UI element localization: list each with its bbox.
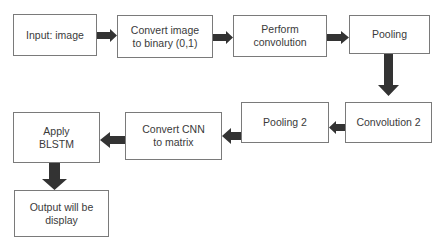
arrow-down-icon <box>378 54 399 96</box>
flowchart-diagram: Input: image Convert image to binary (0,… <box>0 0 441 251</box>
arrow-left-icon <box>222 128 241 144</box>
node-apply-blstm: Apply BLSTM <box>13 112 100 163</box>
node-perform-convolution: Perform convolution <box>233 15 327 57</box>
arrow-right-icon <box>97 29 117 42</box>
node-pooling: Pooling <box>349 15 430 54</box>
node-label: Apply BLSTM <box>39 125 74 151</box>
arrow-right-icon <box>213 31 233 44</box>
arrow-down-icon <box>42 163 67 190</box>
node-convolution-2: Convolution 2 <box>345 102 432 143</box>
node-label: Convert CNN to matrix <box>142 123 204 149</box>
node-label: Convolution 2 <box>356 116 420 129</box>
node-convert-cnn-to-matrix: Convert CNN to matrix <box>125 112 222 160</box>
node-label: Pooling <box>372 28 407 41</box>
node-label: Pooling 2 <box>263 116 307 129</box>
node-label: Convert image to binary (0,1) <box>131 24 199 50</box>
node-output-display: Output will be display <box>14 190 109 237</box>
node-label: Perform convolution <box>253 23 306 49</box>
arrow-right-icon <box>327 31 349 44</box>
node-convert-to-binary: Convert image to binary (0,1) <box>117 15 213 58</box>
arrow-left-icon <box>329 121 345 134</box>
node-input-image: Input: image <box>13 14 97 56</box>
node-pooling-2: Pooling 2 <box>241 102 329 143</box>
node-label: Input: image <box>26 29 84 42</box>
arrow-left-icon <box>100 132 125 148</box>
node-label: Output will be display <box>30 201 94 227</box>
